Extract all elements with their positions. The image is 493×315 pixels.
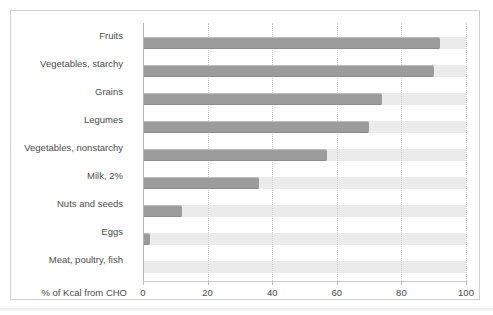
x-axis-title: % of Kcal from CHO bbox=[41, 287, 127, 298]
tick-mark-100 bbox=[466, 281, 467, 285]
category-label: Vegetables, nonstarchy bbox=[0, 143, 123, 153]
category-label: Vegetables, starchy bbox=[0, 59, 123, 69]
category-label: Fruits bbox=[0, 31, 123, 41]
bar-legumes bbox=[143, 121, 369, 133]
row-band bbox=[143, 205, 466, 217]
tick-mark-20 bbox=[208, 281, 209, 285]
y-axis-line bbox=[143, 23, 144, 281]
tick-mark-0 bbox=[143, 281, 144, 285]
tick-label-80: 80 bbox=[396, 287, 407, 298]
tick-mark-80 bbox=[401, 281, 402, 285]
chart-frame: Fruits Vegetables, starchy Grains Legume… bbox=[10, 10, 480, 300]
plot-wrapper: Fruits Vegetables, starchy Grains Legume… bbox=[11, 11, 479, 299]
bar-nuts-and-seeds bbox=[143, 205, 182, 217]
bar-vegetables-nonstarchy bbox=[143, 149, 327, 161]
tick-label-40: 40 bbox=[267, 287, 278, 298]
row-band bbox=[143, 261, 466, 273]
tick-label-100: 100 bbox=[458, 287, 474, 298]
category-label: Grains bbox=[0, 87, 123, 97]
gridline-80 bbox=[401, 23, 402, 281]
bar-vegetables-starchy bbox=[143, 65, 434, 77]
plot-area bbox=[143, 23, 466, 281]
category-label: Nuts and seeds bbox=[0, 199, 123, 209]
gridline-60 bbox=[337, 23, 338, 281]
category-label: Milk, 2% bbox=[0, 171, 123, 181]
tick-label-60: 60 bbox=[332, 287, 343, 298]
tick-label-0: 0 bbox=[140, 287, 145, 298]
x-axis-line bbox=[143, 281, 467, 282]
tick-mark-60 bbox=[337, 281, 338, 285]
bar-grains bbox=[143, 93, 382, 105]
row-band bbox=[143, 233, 466, 245]
page-edge-artifact bbox=[0, 308, 493, 311]
category-label: Legumes bbox=[0, 115, 123, 125]
category-label: Eggs bbox=[0, 227, 123, 237]
gridline-100 bbox=[466, 23, 467, 281]
bar-fruits bbox=[143, 37, 440, 49]
tick-mark-40 bbox=[272, 281, 273, 285]
tick-label-20: 20 bbox=[202, 287, 213, 298]
category-label: Meat, poultry, fish bbox=[0, 255, 123, 265]
bar-milk-2-percent bbox=[143, 177, 259, 189]
